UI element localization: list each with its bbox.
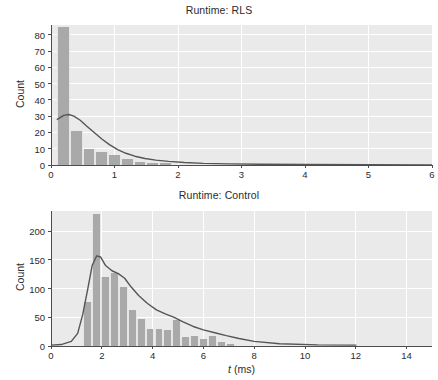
histogram-bar (57, 27, 70, 165)
y-tick-label: 10 (15, 143, 45, 154)
gridline-vertical (152, 211, 153, 346)
x-tick-mark (51, 165, 52, 168)
y-tick-label: 20 (15, 127, 45, 138)
gridline-vertical (114, 25, 115, 165)
x-tick-mark (114, 165, 115, 168)
x-tick-mark (178, 165, 179, 168)
histogram-bar (146, 329, 155, 346)
gridline-vertical (178, 25, 179, 165)
histogram-bar (108, 155, 121, 165)
gridline-vertical (355, 211, 356, 346)
x-tick-mark (432, 165, 433, 168)
gridline-vertical (368, 25, 369, 165)
y-tick-label: 60 (15, 62, 45, 73)
x-tick-label: 6 (420, 169, 438, 180)
x-tick-mark (305, 346, 306, 349)
histogram-bar (101, 277, 110, 347)
y-tick-mark (48, 51, 51, 52)
gridline-vertical (203, 211, 204, 346)
gridline-vertical (305, 25, 306, 165)
histogram-bar (95, 152, 108, 165)
x-tick-mark (152, 346, 153, 349)
y-tick-mark (48, 99, 51, 100)
panel-runtime-control: Runtime: Control Count t (ms) 0501001502… (0, 185, 438, 380)
x-tick-mark (203, 346, 204, 349)
y-tick-label: 70 (15, 46, 45, 57)
y-tick-label: 50 (15, 78, 45, 89)
y-tick-label: 30 (15, 111, 45, 122)
x-tick-mark (406, 346, 407, 349)
y-tick-label: 200 (15, 226, 45, 237)
x-tick-label: 1 (103, 169, 127, 180)
y-tick-label: 100 (15, 283, 45, 294)
y-tick-mark (48, 317, 51, 318)
y-tick-mark (48, 132, 51, 133)
x-tick-label: 14 (395, 350, 419, 361)
x-tick-mark (51, 346, 52, 349)
x-tick-label: 6 (191, 350, 215, 361)
y-tick-mark (48, 34, 51, 35)
gridline-vertical (406, 211, 407, 346)
plot-area-control (51, 211, 432, 346)
x-axis-label-unit: (ms) (231, 363, 255, 375)
y-axis-rls (51, 25, 52, 165)
y-tick-mark (48, 231, 51, 232)
x-tick-label: 4 (293, 169, 317, 180)
x-tick-label: 2 (166, 169, 190, 180)
panel-title-control: Runtime: Control (0, 189, 438, 201)
x-tick-mark (241, 165, 242, 168)
histogram-bar (163, 330, 172, 346)
x-tick-label: 8 (242, 350, 266, 361)
histogram-bar (208, 336, 217, 346)
histogram-bar (172, 320, 181, 346)
histogram-bar (190, 336, 199, 346)
gridline-vertical (305, 211, 306, 346)
histogram-bar (128, 310, 137, 346)
x-tick-mark (355, 346, 356, 349)
histogram-bar (119, 287, 128, 346)
y-tick-mark (48, 67, 51, 68)
histogram-bar (70, 131, 83, 165)
x-axis-label-control: t (ms) (51, 363, 432, 375)
y-tick-label: 40 (15, 94, 45, 105)
y-tick-mark (48, 148, 51, 149)
histogram-bar (181, 337, 190, 346)
y-axis-control (51, 211, 52, 346)
x-tick-label: 4 (141, 350, 165, 361)
x-tick-mark (368, 165, 369, 168)
x-tick-label: 12 (344, 350, 368, 361)
x-axis-control (51, 346, 432, 347)
y-tick-mark (48, 83, 51, 84)
x-tick-label: 0 (39, 169, 63, 180)
histogram-bar (83, 302, 92, 346)
histogram-bar (137, 319, 146, 346)
histogram-bar (199, 339, 208, 346)
figure-runtime-histograms: Runtime: RLS Count 010203040506070800123… (0, 0, 438, 380)
x-tick-label: 5 (357, 169, 381, 180)
y-tick-label: 80 (15, 29, 45, 40)
x-tick-label: 2 (90, 350, 114, 361)
y-tick-mark (48, 288, 51, 289)
histogram-bar (92, 214, 101, 346)
histogram-bar (155, 329, 164, 346)
x-tick-mark (305, 165, 306, 168)
gridline-vertical (432, 25, 433, 165)
gridline-horizontal (51, 259, 432, 260)
panel-runtime-rls: Runtime: RLS Count 010203040506070800123… (0, 0, 438, 190)
gridline-horizontal (51, 231, 432, 232)
x-tick-label: 3 (230, 169, 254, 180)
y-tick-mark (48, 259, 51, 260)
x-tick-label: 10 (293, 350, 317, 361)
y-tick-label: 150 (15, 254, 45, 265)
x-tick-mark (101, 346, 102, 349)
y-tick-mark (48, 116, 51, 117)
panel-title-rls: Runtime: RLS (0, 4, 438, 16)
histogram-bar (83, 149, 96, 165)
gridline-vertical (241, 25, 242, 165)
gridline-vertical (254, 211, 255, 346)
y-tick-label: 50 (15, 312, 45, 323)
plot-area-rls (51, 25, 432, 165)
x-tick-label: 0 (39, 350, 63, 361)
histogram-bar (110, 273, 119, 346)
x-tick-mark (254, 346, 255, 349)
